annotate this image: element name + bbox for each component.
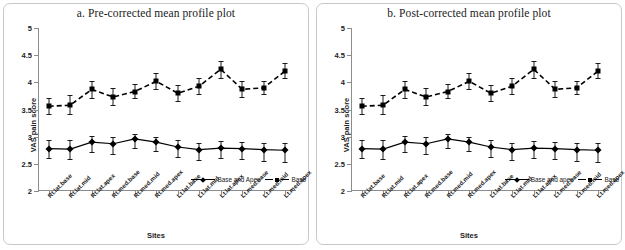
data-point-marker bbox=[510, 84, 515, 89]
error-bar-cap bbox=[445, 84, 450, 85]
error-bar-cap bbox=[240, 142, 245, 143]
error-bar-cap bbox=[154, 137, 159, 138]
series-line bbox=[49, 69, 286, 106]
error-bar-cap bbox=[261, 94, 266, 95]
error-bar-cap bbox=[111, 105, 116, 106]
legend-dash-icon bbox=[265, 179, 273, 180]
error-bar-cap bbox=[445, 98, 450, 99]
x-axis-labels: Rt.lat.baseRt.lat.midRt.lat.apexRt.med.b… bbox=[38, 194, 296, 234]
error-bar-cap bbox=[46, 98, 51, 99]
error-bar-cap bbox=[445, 148, 450, 149]
error-bar-cap bbox=[89, 81, 94, 82]
error-bar-cap bbox=[467, 73, 472, 74]
error-bar-cap bbox=[154, 73, 159, 74]
plot-area: 22.533.544.55 bbox=[351, 28, 609, 191]
legend-item-base-and-apex: Base and apex bbox=[505, 176, 574, 183]
y-tick-label: 2 bbox=[28, 187, 32, 196]
error-bar-cap bbox=[283, 143, 288, 144]
data-point-marker bbox=[381, 103, 386, 108]
error-bar-cap bbox=[261, 143, 266, 144]
error-bar-cap bbox=[154, 89, 159, 90]
panel-title: a. Pre-corrected mean profile plot bbox=[0, 7, 312, 19]
error-bar-cap bbox=[488, 140, 493, 141]
data-point-marker bbox=[68, 103, 73, 108]
data-point-marker bbox=[218, 67, 223, 72]
data-point-marker bbox=[89, 87, 94, 92]
error-bar-cap bbox=[553, 142, 558, 143]
error-bar-cap bbox=[531, 158, 536, 159]
error-bar-cap bbox=[424, 137, 429, 138]
data-point-marker bbox=[424, 95, 429, 100]
error-bar-cap bbox=[240, 159, 245, 160]
error-bar-cap bbox=[381, 114, 386, 115]
series-lines bbox=[351, 28, 609, 191]
error-bar-cap bbox=[46, 140, 51, 141]
error-bar-cap bbox=[467, 151, 472, 152]
error-bar-cap bbox=[596, 78, 601, 79]
legend-solid-line-diamond-icon bbox=[191, 179, 215, 180]
error-bar-cap bbox=[283, 78, 288, 79]
y-tick bbox=[34, 191, 39, 192]
error-bar-cap bbox=[46, 158, 51, 159]
data-point-marker bbox=[261, 85, 266, 90]
error-bar-cap bbox=[359, 158, 364, 159]
y-tick-label: 3 bbox=[341, 132, 345, 141]
legend-label: Base and apex bbox=[531, 176, 574, 183]
error-bar-cap bbox=[531, 61, 536, 62]
series-lines bbox=[38, 28, 296, 191]
error-bar-cap bbox=[111, 88, 116, 89]
error-bar-cap bbox=[510, 94, 515, 95]
error-bar-cap bbox=[531, 141, 536, 142]
error-bar-cap bbox=[381, 140, 386, 141]
legend-item-base: Base bbox=[265, 176, 306, 183]
error-bar-cap bbox=[510, 143, 515, 144]
error-bar-cap bbox=[553, 81, 558, 82]
data-point-marker bbox=[240, 87, 245, 92]
error-bar-cap bbox=[359, 140, 364, 141]
error-bar-cap bbox=[574, 81, 579, 82]
y-tick-label: 2 bbox=[341, 187, 345, 196]
y-tick-label: 3.5 bbox=[335, 105, 345, 114]
error-bar-cap bbox=[402, 152, 407, 153]
y-tick-label: 4.5 bbox=[335, 51, 345, 60]
legend-dash-icon bbox=[578, 179, 586, 180]
legend-dash-icon bbox=[594, 179, 602, 180]
data-point-marker bbox=[197, 84, 202, 89]
error-bar-cap bbox=[467, 137, 472, 138]
data-point-marker bbox=[175, 91, 180, 96]
error-bar-cap bbox=[240, 97, 245, 98]
panel-title: b. Post-corrected mean profile plot bbox=[313, 7, 625, 19]
y-tick-label: 3.5 bbox=[22, 105, 32, 114]
y-tick-label: 4 bbox=[28, 78, 32, 87]
x-axis-title: Sites bbox=[0, 231, 312, 240]
panel-post-corrected: b. Post-corrected mean profile plot VAS … bbox=[313, 0, 625, 250]
error-bar-cap bbox=[424, 105, 429, 106]
legend-square-marker-icon bbox=[588, 178, 592, 182]
error-bar-cap bbox=[359, 98, 364, 99]
legend-solid-line-diamond-icon bbox=[505, 179, 529, 180]
y-tick-label: 5 bbox=[28, 24, 32, 33]
error-bar-cap bbox=[402, 81, 407, 82]
error-bar-cap bbox=[574, 143, 579, 144]
x-axis-labels: Rt.lat.baseRt.lat.midRt.lat.apexRt.med.b… bbox=[351, 194, 609, 234]
legend-dash-icon bbox=[281, 179, 289, 180]
error-bar-cap bbox=[218, 141, 223, 142]
error-bar-cap bbox=[154, 151, 159, 152]
data-point-marker bbox=[111, 95, 116, 100]
error-bar-cap bbox=[197, 143, 202, 144]
error-bar-cap bbox=[218, 61, 223, 62]
legend-label: Base bbox=[291, 176, 306, 183]
data-point-marker bbox=[467, 79, 472, 84]
error-bar-cap bbox=[402, 98, 407, 99]
error-bar-cap bbox=[175, 157, 180, 158]
data-point-marker bbox=[359, 104, 364, 109]
error-bar-cap bbox=[424, 88, 429, 89]
error-bar-cap bbox=[175, 101, 180, 102]
data-point-marker bbox=[46, 104, 51, 109]
legend: Base and Apex Base bbox=[191, 176, 306, 183]
error-bar-cap bbox=[218, 158, 223, 159]
data-point-marker bbox=[531, 67, 536, 72]
error-bar-cap bbox=[68, 95, 73, 96]
figure-root: a. Pre-corrected mean profile plot VAS p… bbox=[0, 0, 625, 250]
error-bar-cap bbox=[89, 136, 94, 137]
